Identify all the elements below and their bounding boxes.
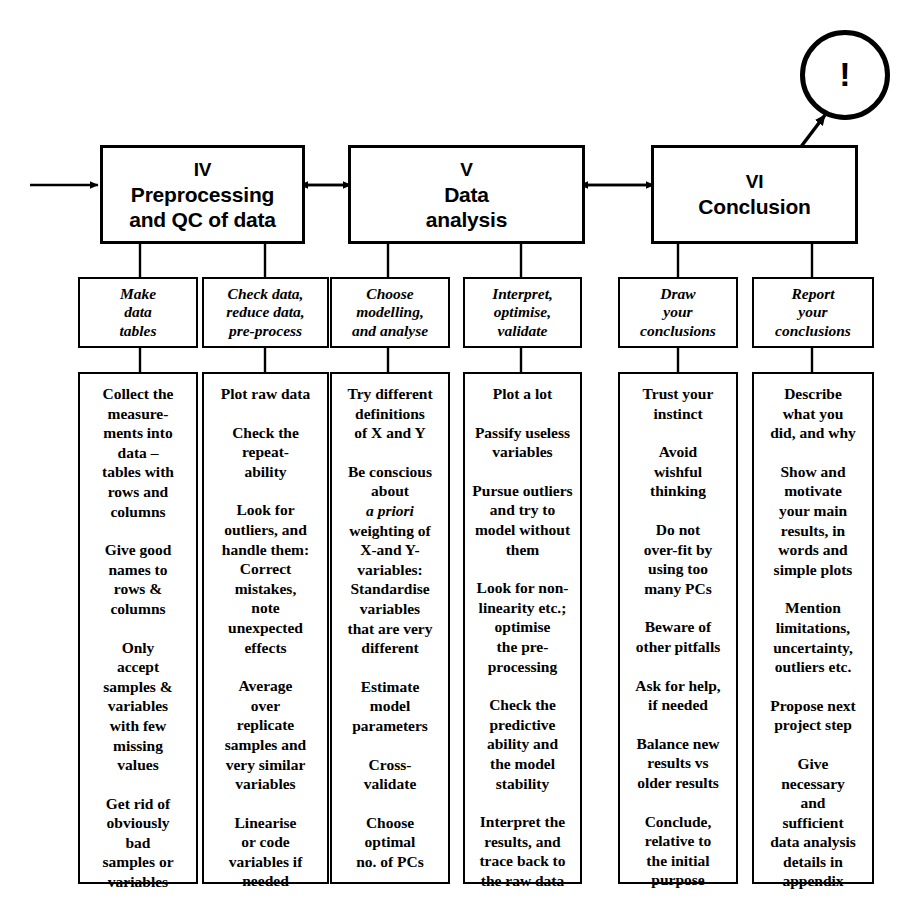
detail-item: Look for outliers, and handle them: Corr…	[207, 500, 324, 657]
task-label: Interpret, optimise, validate	[492, 285, 553, 341]
detail-item: Do not over-fit by using too many PCs	[623, 520, 733, 598]
detail-item: Propose next project step	[757, 696, 869, 735]
stage-box-preprocessing[interactable]: IV Preprocessing and QC of data	[100, 145, 305, 244]
detail-column-choose-modelling: Try different definitions of X and YBe c…	[330, 372, 450, 884]
detail-item: Balance new results vs older results	[623, 734, 733, 793]
detail-item: Ask for help, if needed	[623, 676, 733, 715]
stage-box-data-analysis[interactable]: V Data analysis	[348, 145, 585, 244]
detail-column-report-your-conclusions: Describe what you did, and whyShow and m…	[752, 372, 874, 884]
stage-numeral: VI	[746, 170, 764, 193]
detail-item: Trust your instinct	[623, 384, 733, 423]
stage-numeral: IV	[194, 158, 212, 181]
detail-item: Only accept samples & variables with few…	[83, 638, 193, 775]
detail-item: Show and motivate your main results, in …	[757, 462, 869, 580]
alert-circle: !	[800, 30, 890, 120]
detail-item: Describe what you did, and why	[757, 384, 869, 443]
stage-title: Data analysis	[426, 182, 507, 232]
detail-item: Give necessary and sufficient data analy…	[757, 754, 869, 891]
task-label: Choose modelling, and analyse	[352, 285, 428, 341]
detail-column-make-data-tables: Collect the measure- ments into data – t…	[78, 372, 198, 884]
detail-item: Check the predictive ability and the mod…	[468, 695, 577, 793]
exclamation-icon: !	[839, 57, 850, 91]
task-label: Report your conclusions	[775, 285, 851, 341]
detail-item: Cross- validate	[335, 755, 445, 794]
task-box-report-your-conclusions[interactable]: Report your conclusions	[752, 277, 874, 348]
detail-item: Average over replicate samples and very …	[207, 676, 324, 794]
detail-item: Interpret the results, and trace back to…	[468, 812, 577, 890]
detail-item: Linearise or code variables if needed	[207, 813, 324, 891]
detail-item: Give good names to rows & columns	[83, 540, 193, 618]
detail-item: Look for non- linearity etc.; optimise t…	[468, 578, 577, 676]
detail-column-interpret-optimise-validate: Plot a lotPassify useless variablesPursu…	[463, 372, 582, 884]
stage-box-conclusion[interactable]: VI Conclusion	[651, 145, 858, 244]
detail-item: Try different definitions of X and Y	[335, 384, 445, 443]
detail-column-draw-your-conclusions: Trust your instinctAvoid wishful thinkin…	[618, 372, 738, 884]
stage-numeral: V	[460, 158, 472, 181]
detail-item: Choose optimal no. of PCs	[335, 813, 445, 872]
detail-item: Pursue outliers and try to model without…	[468, 481, 577, 559]
detail-column-check-reduce-preprocess: Plot raw dataCheck the repeat- abilityLo…	[202, 372, 329, 884]
flowchart-canvas: ! IV Preprocessing and QC of data V Data…	[0, 0, 910, 913]
detail-item: Be conscious about a priori weighting of…	[335, 462, 445, 658]
task-label: Make data tables	[119, 285, 156, 341]
task-box-draw-your-conclusions[interactable]: Draw your conclusions	[618, 277, 738, 348]
stage-title: Preprocessing and QC of data	[129, 182, 276, 232]
stage-title: Conclusion	[698, 194, 810, 219]
task-box-interpret-optimise-validate[interactable]: Interpret, optimise, validate	[463, 277, 582, 348]
detail-item: Passify useless variables	[468, 423, 577, 462]
detail-item: Mention limitations, uncertainty, outlie…	[757, 598, 869, 676]
detail-item: Beware of other pitfalls	[623, 617, 733, 656]
task-box-check-reduce-preprocess[interactable]: Check data, reduce data, pre-process	[202, 277, 329, 348]
detail-item: Plot a lot	[468, 384, 577, 404]
task-label: Draw your conclusions	[640, 285, 716, 341]
detail-item: Plot raw data	[207, 384, 324, 404]
task-box-choose-modelling[interactable]: Choose modelling, and analyse	[330, 277, 450, 348]
task-box-make-data-tables[interactable]: Make data tables	[78, 277, 198, 348]
detail-item: Conclude, relative to the initial purpos…	[623, 812, 733, 890]
detail-item: Estimate model parameters	[335, 677, 445, 736]
detail-item: Collect the measure- ments into data – t…	[83, 384, 193, 521]
detail-item: Get rid of obviously bad samples or vari…	[83, 794, 193, 892]
task-label: Check data, reduce data, pre-process	[226, 285, 304, 341]
detail-item: Avoid wishful thinking	[623, 442, 733, 501]
detail-item: Check the repeat- ability	[207, 423, 324, 482]
